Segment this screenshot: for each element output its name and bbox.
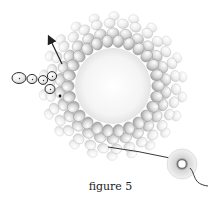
bead	[97, 143, 110, 154]
highlighted-bead	[27, 74, 37, 83]
beading-diagram	[0, 0, 221, 204]
bead	[117, 18, 130, 29]
bead	[152, 81, 164, 92]
highlighted-bead	[45, 84, 55, 93]
figure-caption: figure 5	[0, 180, 221, 193]
highlighted-bead	[47, 72, 56, 81]
center-hole	[75, 48, 151, 124]
highlighted-bead	[38, 76, 47, 85]
bead	[104, 18, 116, 28]
highlighted-bead	[12, 73, 26, 84]
bead	[62, 81, 74, 92]
